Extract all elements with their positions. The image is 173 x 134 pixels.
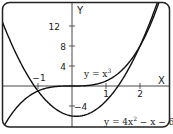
x-axis-label: X xyxy=(158,75,165,86)
y-axis-label: Y xyxy=(76,5,84,16)
chart-figure: 12 8 4 −4 −1 1 2 Y X y = x3 y = 4x2 − x … xyxy=(0,0,173,134)
y-tick-label-12: 12 xyxy=(49,22,60,32)
curve-label-quadratic: y = 4x2 − x − 6 xyxy=(103,115,173,127)
curve-y-equals-x-cubed xyxy=(1,0,170,132)
x-tick-label-2: 2 xyxy=(137,89,143,99)
x-tick-label-neg1: −1 xyxy=(32,73,45,83)
y-tick-label-neg4: −4 xyxy=(74,102,88,112)
y-tick-label-8: 8 xyxy=(60,42,66,52)
x-tick-label-1: 1 xyxy=(103,89,109,99)
y-tick-label-4: 4 xyxy=(60,62,66,72)
curve-label-cubic: y = x3 xyxy=(83,67,111,79)
